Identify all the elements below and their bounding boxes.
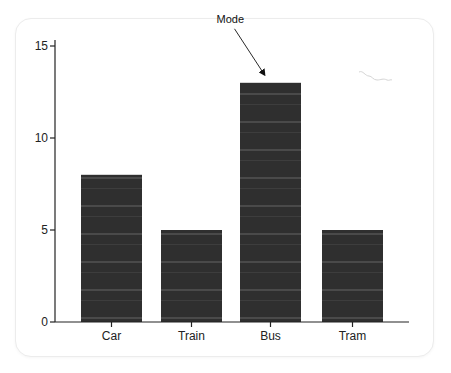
y-tick-label: 15 [35,39,49,53]
scribble-artifact-icon [357,68,393,86]
bars-group: Car: 8Train: 5Bus: 13Tram: 5 [81,83,383,322]
annotations-group: Mode [217,13,265,75]
bar-train: Train: 5 [161,230,222,322]
bar-car: Car: 8 [81,175,142,322]
bar-chart: Car: 8Train: 5Bus: 13Tram: 5 051015CarTr… [0,0,451,373]
y-tick-label: 5 [41,223,48,237]
bar-bus: Bus: 13 [240,83,301,322]
annotation-arrow [235,29,265,75]
x-tick-label-car: Car [102,329,121,343]
annotation-label: Mode [217,13,245,25]
chart-canvas: Car: 8Train: 5Bus: 13Tram: 5 051015CarTr… [0,0,451,373]
y-tick-label: 0 [41,315,48,329]
x-tick-label-tram: Tram [339,329,367,343]
x-tick-label-bus: Bus [260,329,281,343]
x-tick-label-train: Train [178,329,205,343]
y-tick-label: 10 [35,131,49,145]
bar-tram: Tram: 5 [322,230,383,322]
